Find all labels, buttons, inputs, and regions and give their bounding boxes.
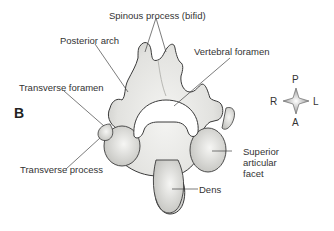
compass-star-icon <box>283 88 309 114</box>
right-transverse-process <box>222 107 235 129</box>
label-superior-articular-facet-2: articular <box>243 157 277 168</box>
compass-left-label: R <box>270 96 277 107</box>
compass-right-label: L <box>313 96 319 107</box>
label-superior-articular-facet-1: Superior <box>243 146 279 157</box>
label-vertebral-foramen: Vertebral foramen <box>194 46 270 57</box>
label-posterior-arch: Posterior arch <box>60 35 119 46</box>
label-dens: Dens <box>199 184 221 195</box>
left-transverse-process <box>98 124 113 141</box>
compass-bottom-label: A <box>292 117 299 128</box>
panel-label: B <box>14 105 24 121</box>
vertebra-illustration <box>0 0 334 231</box>
label-superior-articular-facet-3: facet <box>243 168 264 179</box>
label-transverse-foramen: Transverse foramen <box>19 82 104 93</box>
dens <box>153 160 183 213</box>
compass-top-label: P <box>292 74 299 85</box>
label-transverse-process: Transverse process <box>20 164 103 175</box>
label-spinous-process: Spinous process (bifid) <box>109 10 206 21</box>
